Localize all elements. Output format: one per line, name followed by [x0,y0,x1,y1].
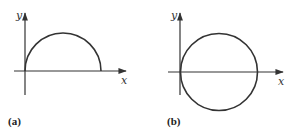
panel-a-label: (a) [8,115,21,128]
y-axis-label: y [15,9,23,22]
panel-b-label: (b) [167,115,181,128]
x-axis-label: x [121,74,128,87]
y-axis-label: y [170,9,178,22]
panel-a: x y (a) [8,9,128,128]
semicircle-curve [25,33,101,71]
panel-b: x y (b) [167,9,285,128]
x-axis-label: x [278,75,285,88]
figure: x y (a) x y (b) [0,0,299,133]
